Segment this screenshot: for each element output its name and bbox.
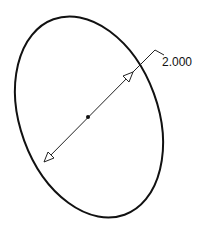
center-point: [86, 115, 90, 119]
drawing-canvas: 2.000: [0, 0, 200, 230]
dimension-value[interactable]: 2.000: [162, 55, 192, 69]
ellipse-outline[interactable]: [0, 0, 189, 230]
